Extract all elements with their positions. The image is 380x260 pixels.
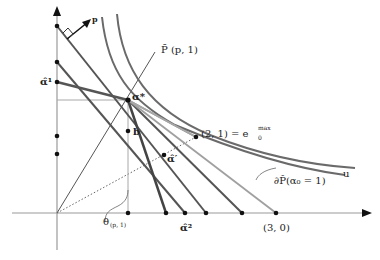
b-label: b bbox=[133, 126, 140, 137]
p-vector-label: p bbox=[92, 14, 98, 24]
alpha-star-label: α* bbox=[132, 91, 146, 102]
alpha-star-point bbox=[125, 97, 130, 102]
boundary-label: ∂P̂(α₀ = 1) bbox=[274, 175, 326, 186]
axes bbox=[12, 6, 372, 250]
point-2-1-label: (2, 1) = e bbox=[201, 128, 249, 139]
point-3-0-label: (3, 0) bbox=[263, 222, 290, 233]
x-axis-arrow-icon bbox=[362, 209, 372, 217]
p-bar-ray bbox=[57, 52, 155, 213]
alpha-hat-1-line bbox=[57, 82, 128, 100]
boundary-line bbox=[128, 100, 276, 213]
point-2-1-sub: 0 bbox=[258, 134, 262, 141]
line-to-242 bbox=[128, 100, 242, 213]
economics-diagram: p P̄ (p, 1) α̂¹ α* b α̂′ (2, 1) = e max … bbox=[0, 0, 380, 260]
u-curve-label: u bbox=[343, 168, 350, 179]
theta-sub-label: (p, 1) bbox=[110, 221, 126, 229]
point-2-1-sup: max bbox=[258, 124, 271, 131]
p-bar-label: P̄ (p, 1) bbox=[161, 44, 198, 55]
alpha-hat-prime-label: α̂′ bbox=[167, 153, 178, 164]
alpha-hat-prime-point bbox=[162, 153, 167, 158]
alpha-hat-1-label: α̂¹ bbox=[40, 76, 52, 87]
alpha-hat-2-label: α̂² bbox=[180, 222, 192, 233]
point-2-1 bbox=[194, 135, 199, 140]
b-point bbox=[126, 129, 131, 134]
y-axis-arrow-icon bbox=[53, 6, 61, 16]
theta-label: θ bbox=[103, 216, 109, 227]
p-vector bbox=[63, 19, 91, 39]
boundary-leader bbox=[256, 168, 276, 180]
